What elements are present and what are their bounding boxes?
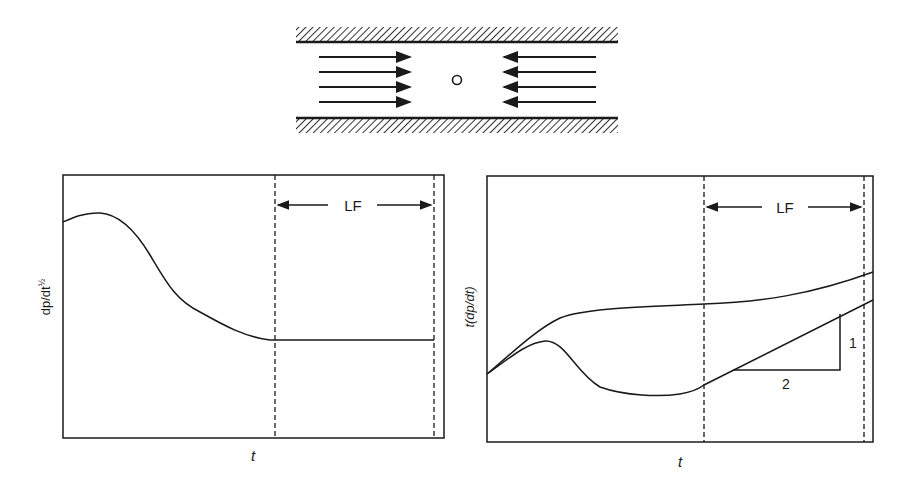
- flow-schematic: [296, 27, 618, 133]
- slope-rise-label: 1: [849, 335, 857, 351]
- left-lf-label: LF: [344, 197, 362, 214]
- slope-run-label: 2: [782, 376, 790, 392]
- right-chart-frame: [487, 176, 873, 442]
- top-boundary-hatch: [296, 27, 618, 41]
- bottom-boundary-hatch: [296, 119, 618, 133]
- right-lower-curve: [487, 300, 873, 396]
- right-upper-curve: [487, 272, 873, 374]
- right-y-axis-label: t(dp/dt): [462, 286, 477, 327]
- figure: LF t dp/dt½ LF 1 2 t t(dp/dt): [0, 0, 911, 485]
- right-x-axis-label: t: [678, 453, 683, 470]
- right-lf-label: LF: [776, 199, 794, 216]
- left-flow-arrows: [319, 57, 410, 102]
- left-x-axis-label: t: [251, 447, 256, 464]
- left-derivative-curve: [63, 213, 434, 340]
- well-marker: [453, 76, 462, 85]
- right-chart: LF 1 2 t t(dp/dt): [462, 176, 873, 470]
- right-flow-arrows: [504, 57, 596, 102]
- left-chart: LF t dp/dt½: [37, 175, 444, 464]
- left-y-axis-label: dp/dt½: [37, 278, 53, 315]
- left-chart-frame: [63, 175, 444, 438]
